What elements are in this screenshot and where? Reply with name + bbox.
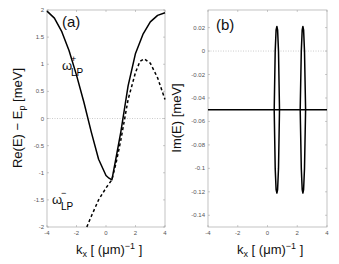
panel-b-label: (b) [216, 16, 234, 33]
omega-plus-annotation: ω + LP [62, 54, 84, 78]
x-tick-label: 2 [134, 230, 138, 236]
y-tick-label: -2 [39, 224, 45, 230]
y-tick-label: -0.04 [191, 95, 205, 101]
x-tick-label: 2 [296, 230, 300, 236]
x-tick-label: 0 [266, 230, 270, 236]
x-tick-label: -2 [74, 230, 80, 236]
series-line [87, 59, 165, 227]
y-tick-label: -0.12 [191, 189, 205, 195]
x-tick-label: -4 [44, 230, 50, 236]
y-tick-label: -0.06 [191, 118, 205, 124]
y-tick-label: -1.5 [34, 197, 45, 203]
y-tick-label: 1 [41, 61, 45, 67]
y-tick-label: 0 [202, 48, 206, 54]
axes-frame [208, 10, 327, 227]
y-tick-label: -0.02 [191, 72, 205, 78]
svg-text:Im(E) [meV]: Im(E) [meV] [169, 83, 184, 152]
panel-a-label: (a) [62, 13, 80, 30]
panel-a-ylabel: Re(E) − Ep [meV] [10, 68, 27, 168]
y-tick-label: -0.1 [195, 165, 206, 171]
x-tick-label: 4 [163, 230, 167, 236]
panel-b-xlabel: kx [ (μm)−1 ] [237, 241, 303, 259]
y-tick-label: -0.08 [191, 142, 205, 148]
x-tick-label: -2 [235, 230, 241, 236]
panel-a-xlabel: kx [ (μm)−1 ] [76, 241, 142, 259]
panel-b-plot: -4-20240.020-0.02-0.04-0.06-0.08-0.1-0.1… [191, 10, 329, 236]
x-tick-label: -4 [205, 230, 211, 236]
panel-b-ylabel: Im(E) [meV] [169, 83, 184, 152]
y-tick-label: 1.5 [36, 34, 45, 40]
omega-minus-annotation: ω − LP [52, 188, 74, 212]
y-tick-label: 0.02 [193, 25, 205, 31]
x-tick-label: 0 [104, 230, 108, 236]
y-tick-label: 0.5 [36, 88, 45, 94]
svg-text:LP: LP [61, 201, 74, 212]
series-line [47, 11, 165, 180]
svg-text:Re(E) − Ep [meV]: Re(E) − Ep [meV] [10, 68, 27, 168]
svg-text:LP: LP [71, 67, 84, 78]
y-tick-label: 0 [41, 116, 45, 122]
svg-text:−: − [61, 188, 66, 198]
x-tick-label: 4 [325, 230, 329, 236]
y-tick-label: -1 [39, 170, 45, 176]
figure: -4-2024-2-1.5-1-0.500.511.52 -4-20240.02… [0, 0, 339, 264]
svg-text:+: + [71, 54, 76, 64]
y-tick-label: -0.14 [191, 212, 205, 218]
y-tick-label: 2 [41, 7, 45, 13]
y-tick-label: -0.5 [34, 143, 45, 149]
